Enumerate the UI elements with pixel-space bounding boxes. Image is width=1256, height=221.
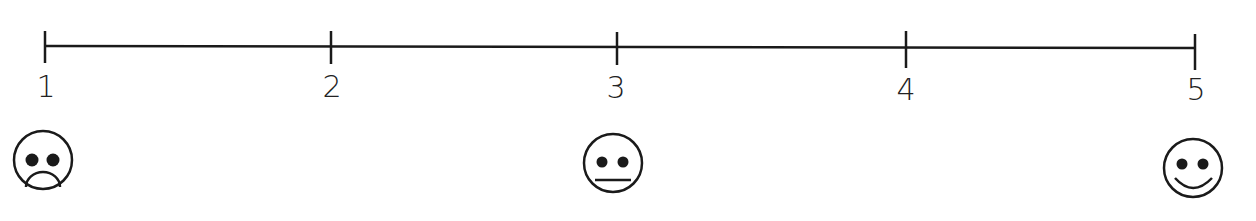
scale-label-3: 3 <box>606 73 625 103</box>
scale-label-5: 5 <box>1186 75 1205 105</box>
scale-label-4: 4 <box>896 75 915 105</box>
rating-scale <box>0 0 1256 221</box>
scale-label-1: 1 <box>36 72 55 102</box>
neutral-face-icon[interactable] <box>584 134 642 192</box>
sad-face-icon[interactable] <box>14 131 72 189</box>
scale-line <box>45 46 1195 48</box>
happy-face-icon[interactable] <box>1164 139 1222 197</box>
scale-label-2: 2 <box>322 72 341 102</box>
